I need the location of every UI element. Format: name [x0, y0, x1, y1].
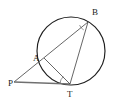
geometry-diagram: P A B T — [0, 0, 120, 101]
chord-line-b-t — [70, 22, 88, 84]
tangent-line-p-t — [14, 82, 70, 84]
diagram-canvas: P A B T — [0, 0, 120, 101]
point-label-a: A — [33, 53, 40, 63]
angle-mark-at-t — [60, 77, 63, 84]
point-label-p: P — [8, 78, 13, 88]
point-label-b: B — [92, 7, 98, 17]
point-label-t: T — [67, 89, 73, 99]
secant-line-p-b — [14, 22, 88, 82]
main-circle — [37, 17, 105, 85]
chord-line-a-t — [44, 58, 70, 84]
